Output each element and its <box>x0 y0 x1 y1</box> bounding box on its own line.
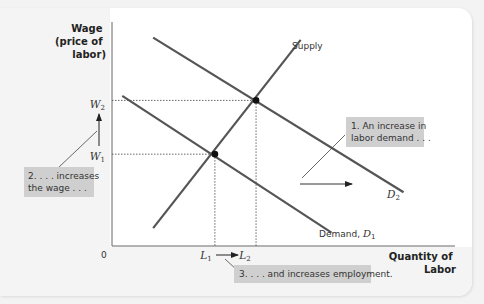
y-axis-title: Wage (price of labor) <box>55 23 106 60</box>
equilibrium-point-2 <box>253 97 260 104</box>
equilibrium-point-1 <box>212 151 219 158</box>
x-axis-title: Quantity of Labor <box>389 251 456 275</box>
labor-market-chart: Wage (price of labor) Quantity of Labor … <box>0 0 484 304</box>
supply-curve <box>153 40 300 228</box>
demand-d2-curve <box>153 38 403 193</box>
l1-label: L1 <box>199 249 211 263</box>
l2-label: L2 <box>238 249 250 263</box>
demand-d1-curve <box>122 96 331 233</box>
demand-d1-label: Demand, D1 <box>319 228 375 241</box>
callout-3-text: 3. . . . and increases employment. <box>239 269 393 279</box>
origin-label: 0 <box>101 250 107 260</box>
d2-label: D2 <box>386 188 400 202</box>
w1-label: W1 <box>90 150 105 164</box>
supply-label: Supply <box>292 41 323 51</box>
w2-label: W2 <box>90 98 105 112</box>
callout-1-leader <box>302 135 345 178</box>
